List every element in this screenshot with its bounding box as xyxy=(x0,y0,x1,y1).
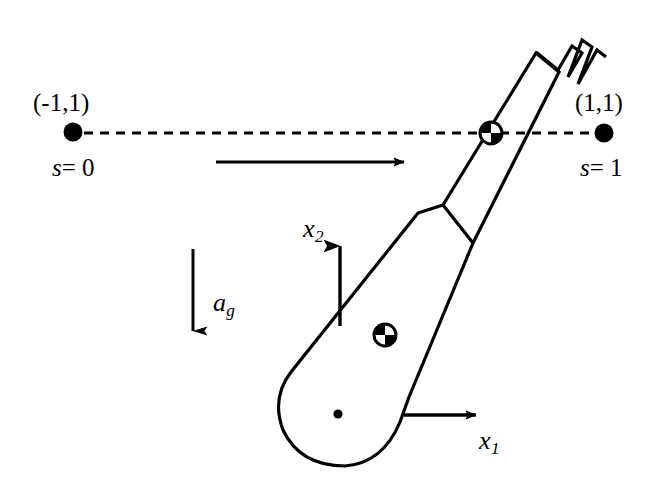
axis-x2-subscript: 2 xyxy=(315,227,324,246)
start-coordinate-label: (-1,1) xyxy=(33,90,89,115)
paddle-pivot-dot xyxy=(333,409,342,418)
gravity-label: ag xyxy=(213,290,235,319)
axis-x2-label: x2 xyxy=(303,216,323,245)
end-coordinate-label: (1,1) xyxy=(575,90,623,115)
end-waypoint-dot xyxy=(595,124,614,143)
diagram-svg xyxy=(0,0,659,491)
axis-x2-symbol: x xyxy=(303,214,315,243)
end-parameter-symbol: s xyxy=(580,154,590,181)
start-parameter-symbol: s xyxy=(52,154,62,181)
axis-x1-subscript: 1 xyxy=(491,439,500,458)
axis-x1-label: x1 xyxy=(479,428,499,457)
axis-x1-symbol: x xyxy=(479,426,491,455)
gravity-symbol: a xyxy=(213,288,226,317)
start-waypoint-dot xyxy=(64,123,83,142)
start-parameter-label: s= 0 xyxy=(52,155,95,180)
end-parameter-label: s= 1 xyxy=(580,155,623,180)
shaft-right-rail xyxy=(473,72,559,243)
figure-canvas: (-1,1) s= 0 (1,1) s= 1 ag x2 x1 xyxy=(0,0,659,491)
gripper-fork-icon xyxy=(536,40,606,84)
start-parameter-value: = 0 xyxy=(62,154,95,181)
gravity-subscript: g xyxy=(226,301,235,320)
end-parameter-value: = 1 xyxy=(590,154,623,181)
